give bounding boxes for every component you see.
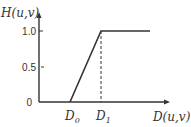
x-axis-arrow-icon [164, 100, 170, 105]
y-axis-label: H(u,v) [0, 6, 39, 20]
y-tick-label-0: 0 [26, 97, 32, 108]
transfer-function-line [70, 31, 150, 102]
chart: H(u,v) 1.0 0.5 0 D0 D1 D(u,v) [0, 0, 191, 127]
x-axis-label: D(u,v) [152, 110, 191, 124]
y-tick-label-1: 1.0 [22, 26, 36, 37]
x-tick-label-d1: D1 [95, 109, 111, 125]
y-tick-label-05: 0.5 [22, 62, 36, 73]
x-tick-label-d0: D0 [64, 109, 80, 125]
